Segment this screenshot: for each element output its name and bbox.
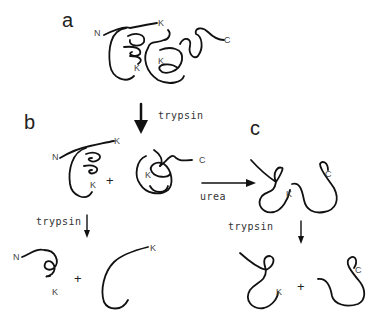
panel-label-c: c [250, 118, 260, 138]
panel-a-protein [104, 23, 224, 83]
panel-label-a: a [62, 10, 73, 30]
step-label-trypsin: trypsin [36, 217, 82, 227]
plus-sign: + [297, 280, 305, 293]
label-c-terminus: C [355, 266, 362, 275]
label-n-terminus: N [13, 253, 20, 262]
arrowhead-main [134, 120, 148, 134]
step-label-urea: urea [200, 192, 226, 202]
label-lysine: K [158, 19, 164, 28]
label-lysine: K [286, 190, 292, 199]
panel-label-b: b [24, 112, 35, 132]
label-lysine: K [145, 171, 151, 180]
diagram-canvas [0, 0, 378, 325]
label-lysine: K [114, 137, 120, 146]
step-label-trypsin: trypsin [228, 222, 274, 232]
label-lysine: K [276, 288, 282, 297]
arrowhead-trypsin-b [84, 230, 90, 238]
label-n-terminus: N [52, 153, 59, 162]
panel-c-unfolded [251, 160, 337, 213]
label-lysine: K [150, 244, 156, 253]
label-c-terminus: C [224, 36, 231, 45]
label-n-terminus: N [94, 29, 101, 38]
panel-b-product-left [22, 250, 57, 277]
arrowhead-trypsin-c [298, 236, 304, 244]
panel-b-product-right [102, 247, 148, 309]
panel-b-fragment-1 [60, 141, 114, 197]
label-lysine: K [90, 181, 96, 190]
plus-sign: + [74, 272, 82, 285]
arrowhead-urea [246, 179, 256, 187]
label-lysine: K [158, 57, 164, 66]
label-c-terminus: C [199, 156, 206, 165]
label-lysine: K [134, 64, 140, 73]
step-label-trypsin: trypsin [158, 111, 204, 121]
label-c-terminus: C [325, 170, 332, 179]
plus-sign: + [106, 174, 114, 187]
label-lysine: K [52, 288, 58, 297]
panel-c-product-left [240, 253, 278, 308]
